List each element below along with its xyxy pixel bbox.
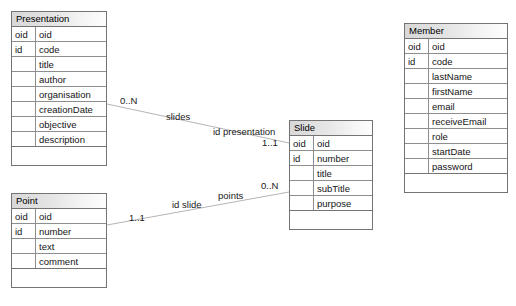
attribute-row[interactable]: subTitle [290, 181, 372, 196]
attribute-row[interactable]: lastName [405, 69, 507, 84]
attribute-row[interactable]: password [405, 159, 507, 174]
attribute-name: description [36, 132, 107, 147]
operations-compartment-slide [290, 210, 372, 229]
attribute-key-marker [290, 166, 314, 181]
attribute-key-marker [290, 181, 314, 196]
attribute-name: title [314, 166, 373, 181]
operations-compartment-point [12, 268, 106, 287]
attribute-row[interactable]: creationDate [12, 102, 106, 117]
multiplicity-source-points: 1..1 [129, 212, 145, 223]
association-name-points: points [218, 190, 243, 201]
attribute-row[interactable]: description [12, 132, 106, 147]
attribute-key-marker [405, 159, 429, 174]
operations-compartment-member [405, 173, 507, 192]
attribute-name: code [36, 42, 107, 57]
multiplicity-source-slides: 0..N [120, 95, 137, 106]
attribute-name: author [36, 72, 107, 87]
attribute-name: password [429, 159, 508, 174]
association-role-slides: id presentation [213, 126, 275, 137]
association-name-slides: slides [166, 111, 190, 122]
attribute-key-marker [12, 72, 36, 87]
attribute-name: firstName [429, 84, 508, 99]
attribute-table-presentation: oidoididcodetitleauthororganisationcreat… [12, 27, 106, 146]
class-title-presentation: Presentation [12, 12, 106, 27]
attribute-key-marker [405, 114, 429, 129]
attribute-key-marker [12, 87, 36, 102]
attribute-row[interactable]: startDate [405, 144, 507, 159]
class-title-slide: Slide [290, 121, 372, 136]
attribute-key-marker [405, 144, 429, 159]
attribute-table-member: oidoididcodelastNamefirstNameemailreceiv… [405, 39, 507, 173]
multiplicity-target-points: 0..N [261, 180, 278, 191]
association-role-points: id slide [172, 199, 202, 210]
attribute-row[interactable]: comment [12, 254, 106, 269]
attribute-name: email [429, 99, 508, 114]
attribute-name: oid [36, 209, 107, 224]
attribute-row[interactable]: email [405, 99, 507, 114]
attribute-key-marker: id [290, 151, 314, 166]
attribute-name: number [36, 224, 107, 239]
attribute-key-marker [12, 132, 36, 147]
attribute-key-marker [12, 254, 36, 269]
attribute-row[interactable]: title [290, 166, 372, 181]
class-box-member[interactable]: MemberoidoididcodelastNamefirstNameemail… [404, 23, 508, 193]
attribute-key-marker [405, 69, 429, 84]
attribute-key-marker: id [405, 54, 429, 69]
attribute-row[interactable]: idnumber [290, 151, 372, 166]
attribute-key-marker: oid [12, 209, 36, 224]
attribute-row[interactable]: objective [12, 117, 106, 132]
attribute-name: oid [429, 39, 508, 54]
attribute-row[interactable]: idcode [12, 42, 106, 57]
attribute-row[interactable]: oidoid [290, 136, 372, 151]
attribute-name: title [36, 57, 107, 72]
attribute-key-marker: id [12, 224, 36, 239]
attribute-name: startDate [429, 144, 508, 159]
attribute-key-marker: id [12, 42, 36, 57]
uml-diagram-canvas: Presentationoidoididcodetitleauthororgan… [0, 0, 516, 306]
attribute-name: lastName [429, 69, 508, 84]
operations-compartment-presentation [12, 146, 106, 165]
attribute-row[interactable]: idcode [405, 54, 507, 69]
attribute-row[interactable]: purpose [290, 196, 372, 211]
attribute-name: purpose [314, 196, 373, 211]
attribute-name: creationDate [36, 102, 107, 117]
multiplicity-target-slides: 1..1 [262, 137, 278, 148]
attribute-name: comment [36, 254, 107, 269]
attribute-name: receiveEmail [429, 114, 508, 129]
attribute-key-marker [290, 196, 314, 211]
attribute-name: organisation [36, 87, 107, 102]
attribute-name: number [314, 151, 373, 166]
attribute-name: oid [36, 27, 107, 42]
attribute-name: objective [36, 117, 107, 132]
attribute-row[interactable]: role [405, 129, 507, 144]
attribute-name: text [36, 239, 107, 254]
attribute-row[interactable]: organisation [12, 87, 106, 102]
attribute-row[interactable]: idnumber [12, 224, 106, 239]
attribute-key-marker [405, 129, 429, 144]
attribute-row[interactable]: oidoid [12, 27, 106, 42]
attribute-row[interactable]: oidoid [12, 209, 106, 224]
attribute-row[interactable]: oidoid [405, 39, 507, 54]
attribute-table-point: oidoididnumbertextcomment [12, 209, 106, 268]
attribute-key-marker [405, 84, 429, 99]
attribute-key-marker: oid [405, 39, 429, 54]
attribute-name: oid [314, 136, 373, 151]
attribute-row[interactable]: author [12, 72, 106, 87]
class-title-member: Member [405, 24, 507, 39]
attribute-name: code [429, 54, 508, 69]
attribute-key-marker [12, 239, 36, 254]
attribute-key-marker: oid [12, 27, 36, 42]
attribute-key-marker [12, 57, 36, 72]
attribute-row[interactable]: text [12, 239, 106, 254]
attribute-key-marker [12, 102, 36, 117]
attribute-key-marker: oid [290, 136, 314, 151]
attribute-row[interactable]: firstName [405, 84, 507, 99]
class-box-slide[interactable]: SlideoidoididnumbertitlesubTitlepurpose [289, 120, 373, 230]
class-box-presentation[interactable]: Presentationoidoididcodetitleauthororgan… [11, 11, 107, 166]
attribute-row[interactable]: receiveEmail [405, 114, 507, 129]
attribute-table-slide: oidoididnumbertitlesubTitlepurpose [290, 136, 372, 210]
class-box-point[interactable]: Pointoidoididnumbertextcomment [11, 193, 107, 288]
attribute-row[interactable]: title [12, 57, 106, 72]
attribute-key-marker [12, 117, 36, 132]
attribute-key-marker [405, 99, 429, 114]
